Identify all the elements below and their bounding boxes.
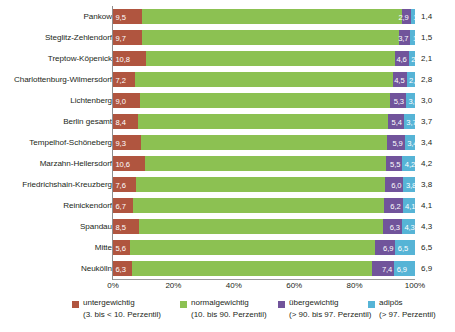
segment-value-label: 2,1 (411, 54, 421, 63)
segment-value-label: 2,9 (398, 12, 408, 21)
bar-row: Lichtenberg9,05,33,03,0 (0, 90, 455, 111)
bar-segment-normalgewichtig (142, 9, 402, 24)
bar-row: Friedrichshain-Kreuzberg7,66,03,83,8 (0, 174, 455, 195)
bar-segment-untergewichtig: 8,4 (113, 114, 138, 129)
legend-label: untergewichtig (83, 298, 135, 307)
x-tick-label: 40% (226, 281, 242, 290)
segment-value-label: 3,7 (406, 117, 416, 126)
bar-segment-übergewichtig: 4,5 (393, 72, 407, 87)
bar-row: Neukölln6,37,46,96,9 (0, 258, 455, 279)
legend-swatch-icon (72, 301, 79, 308)
bar-track: 9,35,93,4 (113, 135, 415, 150)
bar-segment-untergewichtig: 8,5 (113, 219, 139, 234)
x-tick-label: 20% (165, 281, 181, 290)
bar-segment-untergewichtig: 10,8 (113, 51, 146, 66)
bar-track: 7,66,03,8 (113, 177, 415, 192)
bar-track: 9,73,71,5 (113, 30, 415, 45)
bar-segment-untergewichtig: 6,3 (113, 261, 132, 276)
bar-segment-adipös: 4,1 (403, 198, 415, 213)
bar-row: Tempelhof-Schöneberg9,35,93,43,4 (0, 132, 455, 153)
bar-segment-adipös: 6,5 (395, 240, 415, 255)
segment-value-label: 3,8 (406, 180, 416, 189)
bar-segment-übergewichtig: 4,6 (395, 51, 409, 66)
segment-value-label: 4,6 (396, 54, 406, 63)
x-axis-line (113, 279, 415, 280)
segment-value-label: 5,5 (390, 159, 400, 168)
bar-segment-adipös: 1,4 (411, 9, 415, 24)
segment-value-label: 3,0 (408, 96, 418, 105)
bar-segment-übergewichtig: 5,3 (390, 93, 406, 108)
bar-segment-adipös: 1,5 (410, 30, 415, 45)
bar-segment-adipös: 3,7 (404, 114, 415, 129)
segment-value-label: 8,4 (116, 117, 126, 126)
adipoes-outside-value: 3,8 (421, 174, 432, 195)
segment-value-label: 6,3 (116, 264, 126, 273)
category-label: Pankow (84, 6, 113, 27)
adipoes-outside-value: 3,7 (421, 111, 432, 132)
segment-value-label: 7,4 (382, 264, 392, 273)
chart-legend: untergewichtig(3. bis < 10. Perzentil)no… (0, 299, 455, 327)
bar-track: 6,76,24,1 (113, 198, 415, 213)
adipoes-outside-value: 6,5 (421, 237, 432, 258)
segment-value-label: 9,5 (116, 12, 126, 21)
bar-segment-normalgewichtig (146, 51, 395, 66)
bar-segment-untergewichtig: 9,7 (113, 30, 142, 45)
adipoes-outside-value: 3,4 (421, 132, 432, 153)
legend-sublabel: (10. bis 90. Perzentil) (191, 310, 267, 319)
bar-track: 10,84,62,1 (113, 51, 415, 66)
adipoes-outside-value: 4,2 (421, 153, 432, 174)
bar-track: 9,05,33,0 (113, 93, 415, 108)
bar-row: Pankow9,52,91,41,4 (0, 6, 455, 27)
bar-track: 10,65,54,2 (113, 156, 415, 171)
category-label: Spandau (80, 216, 112, 237)
bar-track: 7,24,52,8 (113, 72, 415, 87)
adipoes-outside-value: 2,8 (421, 69, 432, 90)
bar-track: 8,56,34,3 (113, 219, 415, 234)
bar-segment-übergewichtig: 6,0 (385, 177, 403, 192)
legend-swatch-icon (278, 301, 285, 308)
bar-row: Berlin gesamt8,45,43,73,7 (0, 111, 455, 132)
adipoes-outside-value: 4,1 (421, 195, 432, 216)
category-label: Mitte (95, 237, 112, 258)
bar-segment-übergewichtig: 5,9 (387, 135, 405, 150)
segment-value-label: 5,9 (392, 138, 402, 147)
bar-segment-untergewichtig: 6,7 (113, 198, 133, 213)
segment-value-label: 5,4 (392, 117, 402, 126)
bar-segment-untergewichtig: 5,6 (113, 240, 130, 255)
segment-value-label: 4,3 (404, 222, 414, 231)
bar-segment-übergewichtig: 6,3 (383, 219, 402, 234)
adipoes-outside-value: 1,5 (421, 27, 432, 48)
bar-segment-adipös: 6,9 (394, 261, 415, 276)
bar-row: Spandau8,56,34,34,3 (0, 216, 455, 237)
category-label: Lichtenberg (70, 90, 112, 111)
bar-row: Marzahn-Hellersdorf10,65,54,24,2 (0, 153, 455, 174)
bar-segment-normalgewichtig (139, 219, 383, 234)
bar-row: Steglitz-Zehlendorf9,73,71,51,5 (0, 27, 455, 48)
x-tick-label: 0% (107, 281, 119, 290)
segment-value-label: 6,3 (390, 222, 400, 231)
legend-sublabel: (> 97. Perzentil) (379, 310, 436, 319)
bar-segment-normalgewichtig (140, 93, 390, 108)
bar-segment-adipös: 3,4 (405, 135, 415, 150)
bar-segment-adipös: 2,1 (409, 51, 415, 66)
segment-value-label: 5,6 (116, 243, 126, 252)
segment-value-label: 6,2 (390, 201, 400, 210)
segment-value-label: 7,2 (116, 75, 126, 84)
bar-row: Mitte5,66,96,56,5 (0, 237, 455, 258)
plot-area: Pankow9,52,91,41,4Steglitz-Zehlendorf9,7… (0, 6, 455, 278)
bar-segment-übergewichtig: 3,7 (399, 30, 410, 45)
category-label: Treptow-Köpenick (48, 48, 112, 69)
bar-segment-untergewichtig: 7,6 (113, 177, 136, 192)
legend-sublabel: (3. bis < 10. Perzentil) (83, 310, 161, 319)
bar-row: Charlottenburg-Wilmersdorf7,24,52,82,8 (0, 69, 455, 90)
segment-value-label: 9,7 (116, 33, 126, 42)
segment-value-label: 6,7 (116, 201, 126, 210)
bar-segment-adipös: 3,8 (403, 177, 414, 192)
bar-segment-normalgewichtig (141, 135, 387, 150)
y-axis-spine (112, 6, 113, 280)
bar-segment-normalgewichtig (133, 198, 384, 213)
x-tick-label: 100% (405, 281, 425, 290)
bar-segment-normalgewichtig (136, 177, 385, 192)
legend-swatch-icon (180, 301, 187, 308)
segment-value-label: 4,2 (405, 159, 415, 168)
